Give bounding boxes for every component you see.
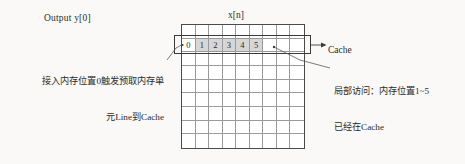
memory-cell-empty (236, 107, 250, 121)
memory-cell-empty (209, 66, 223, 80)
memory-cell-empty (263, 107, 277, 121)
memory-cell-empty (290, 80, 304, 94)
memory-cell-empty (223, 134, 237, 148)
memory-cell-empty (250, 80, 264, 94)
left-annotation-line-2: 元Line到Cache (12, 112, 164, 124)
memory-cell-empty (277, 80, 291, 94)
right-annotation-line-1: 局部访问：内存位置1~5 (334, 86, 460, 98)
memory-cell-empty (196, 107, 210, 121)
memory-cell-empty (182, 107, 196, 121)
memory-cell-empty (236, 134, 250, 148)
memory-cell-empty (290, 134, 304, 148)
memory-cell-empty (290, 93, 304, 107)
memory-cell-empty (182, 66, 196, 80)
memory-cell-empty (223, 25, 237, 39)
memory-cell-empty (223, 66, 237, 80)
memory-cell-empty (250, 134, 264, 148)
memory-cell-empty (277, 107, 291, 121)
left-annotation-line-1: 接入内存位置0触发预取内存单 (12, 76, 164, 88)
memory-cell-empty (250, 121, 264, 135)
memory-cell-empty (290, 107, 304, 121)
memory-cell-empty (182, 25, 196, 39)
memory-cell-empty (196, 52, 210, 66)
memory-cell-empty (250, 25, 264, 39)
memory-cell-empty (250, 66, 264, 80)
memory-cell-empty (263, 39, 277, 53)
memory-cell-empty (209, 107, 223, 121)
memory-cell-empty (236, 52, 250, 66)
memory-cell-empty (263, 52, 277, 66)
memory-cell-empty (182, 80, 196, 94)
memory-cell-empty (250, 93, 264, 107)
memory-cell-empty (236, 66, 250, 80)
memory-cell-empty (277, 134, 291, 148)
memory-cell-empty (182, 93, 196, 107)
memory-cell-empty (209, 25, 223, 39)
memory-cell-empty (223, 80, 237, 94)
output-label: Output y[0] (44, 13, 91, 24)
memory-cell-1: 1 (196, 39, 210, 53)
memory-cell-empty (277, 121, 291, 135)
memory-cell-4: 4 (236, 39, 250, 53)
memory-cell-empty (263, 93, 277, 107)
memory-cell-empty (182, 52, 196, 66)
memory-cell-empty (223, 93, 237, 107)
memory-cell-empty (236, 80, 250, 94)
memory-cell-empty (263, 80, 277, 94)
memory-cell-empty (277, 52, 291, 66)
memory-cell-empty (290, 25, 304, 39)
memory-cell-empty (250, 107, 264, 121)
memory-cell-empty (236, 121, 250, 135)
memory-cell-empty (277, 39, 291, 53)
memory-cell-empty (196, 66, 210, 80)
memory-cell-empty (263, 66, 277, 80)
memory-cell-empty (196, 80, 210, 94)
memory-cell-empty (223, 107, 237, 121)
memory-cell-empty (236, 25, 250, 39)
figure-canvas: Output y[0] x[n] 012345 Cache 接入内存位置0触发预… (0, 0, 465, 164)
memory-cell-empty (223, 52, 237, 66)
memory-cell-empty (277, 93, 291, 107)
memory-cell-empty (196, 25, 210, 39)
left-annotation: 接入内存位置0触发预取内存单 元Line到Cache (12, 52, 164, 148)
memory-cell-empty (263, 121, 277, 135)
memory-cell-empty (182, 134, 196, 148)
memory-cell-empty (182, 121, 196, 135)
memory-cell-empty (209, 93, 223, 107)
memory-cell-empty (209, 52, 223, 66)
array-label: x[n] (228, 10, 244, 21)
memory-cell-0: 0 (182, 39, 196, 53)
memory-cell-empty (290, 52, 304, 66)
memory-cell-empty (290, 39, 304, 53)
memory-cell-empty (209, 121, 223, 135)
memory-cell-5: 5 (250, 39, 264, 53)
memory-cell-empty (209, 134, 223, 148)
memory-cell-empty (196, 121, 210, 135)
memory-cell-2: 2 (209, 39, 223, 53)
right-annotation-line-2: 已经在Cache (334, 122, 460, 134)
memory-cell-empty (250, 52, 264, 66)
memory-cell-empty (277, 66, 291, 80)
memory-cell-3: 3 (223, 39, 237, 53)
memory-cell-empty (277, 25, 291, 39)
cache-label: Cache (328, 45, 352, 56)
memory-grid: 012345 (181, 24, 305, 149)
memory-cell-empty (209, 80, 223, 94)
memory-cell-empty (290, 66, 304, 80)
memory-cell-empty (196, 134, 210, 148)
memory-cell-empty (263, 134, 277, 148)
memory-cell-empty (236, 93, 250, 107)
memory-cell-empty (196, 93, 210, 107)
memory-cell-empty (223, 121, 237, 135)
cache-pointer-arrow (311, 43, 327, 48)
memory-cell-empty (263, 25, 277, 39)
right-annotation: 局部访问：内存位置1~5 已经在Cache (334, 62, 460, 158)
memory-cell-empty (290, 121, 304, 135)
